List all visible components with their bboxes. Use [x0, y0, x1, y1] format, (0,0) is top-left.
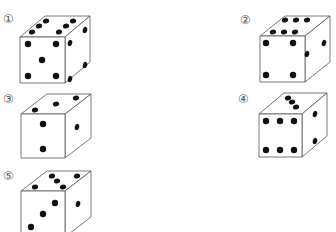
front-pip — [25, 41, 31, 47]
front-pip — [40, 146, 46, 152]
die-2 — [260, 16, 330, 82]
die-3 — [21, 94, 91, 158]
front-pip — [52, 200, 58, 206]
front-pip — [28, 224, 34, 230]
front-pip — [263, 72, 269, 78]
front-pip — [53, 41, 59, 47]
front-pip — [290, 40, 296, 46]
front-pip — [291, 147, 297, 153]
front-pip — [40, 211, 46, 217]
front-pip — [263, 40, 269, 46]
front-pip — [290, 72, 296, 78]
die-5 — [21, 171, 91, 232]
front-pip — [25, 73, 31, 79]
front-pip — [53, 73, 59, 79]
front-pip — [277, 147, 283, 153]
die-1 — [20, 16, 90, 83]
front-pip — [277, 118, 283, 124]
front-pip — [263, 118, 269, 124]
die-4 — [259, 93, 327, 157]
front-pip — [263, 147, 269, 153]
front-pip — [40, 121, 46, 127]
front-pip — [39, 57, 45, 63]
front-pip — [291, 118, 297, 124]
dice-figure — [0, 0, 336, 232]
